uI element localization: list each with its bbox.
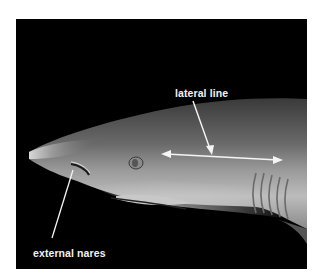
lateral-line-label: lateral line bbox=[175, 87, 228, 99]
external-nares-label: external nares bbox=[33, 247, 106, 259]
shark-photo: lateral line external nares bbox=[16, 19, 307, 269]
shark-illustration bbox=[16, 19, 307, 269]
external-nares-pointer bbox=[52, 170, 73, 238]
